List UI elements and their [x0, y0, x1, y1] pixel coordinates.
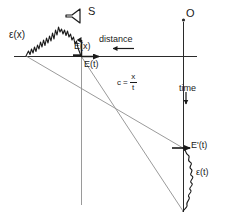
- speed-numerator: x: [130, 73, 136, 81]
- label-observer: O: [186, 8, 195, 19]
- ray-upper: [26, 56, 183, 148]
- speed-equals: =: [123, 79, 128, 87]
- diagram-canvas: [0, 0, 225, 216]
- label-epsilon-t: ε(t): [196, 168, 209, 177]
- observer-marker-dot: [182, 18, 185, 21]
- label-field-e-t: E(t): [84, 60, 99, 69]
- label-distance: distance: [99, 35, 133, 44]
- speaker-icon: [66, 9, 80, 23]
- epsilon-x-waveform: [26, 27, 81, 56]
- epsilon-t-waveform: [183, 148, 193, 212]
- label-time: time: [179, 84, 196, 93]
- label-epsilon-x: ε(x): [9, 30, 25, 40]
- label-source: S: [88, 6, 95, 17]
- label-field-e-prime-t: E'(t): [191, 141, 207, 150]
- speed-denominator: t: [131, 84, 135, 92]
- speed-symbol: c: [117, 79, 121, 87]
- label-field-e-x: E(x): [74, 42, 91, 51]
- label-speed-relation: c = x t: [117, 73, 137, 92]
- physics-diagram-figure: ε(x) S E(x) E(t) distance O time E'(t) ε…: [0, 0, 225, 216]
- speed-fraction: x t: [130, 73, 137, 92]
